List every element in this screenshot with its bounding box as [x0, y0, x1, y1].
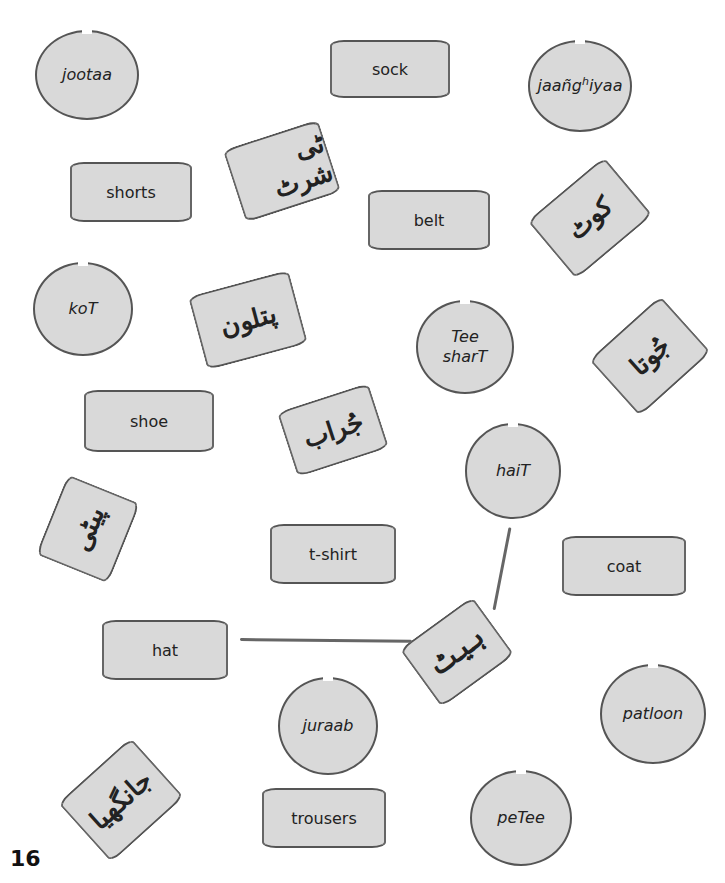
- card-label: shoe: [130, 412, 168, 431]
- card-label: ٹی شرٹ: [227, 128, 337, 215]
- card-label: جُراب: [299, 406, 366, 453]
- card-urdu-tshirt[interactable]: ٹی شرٹ: [223, 119, 342, 222]
- circle-label: haiT: [496, 461, 530, 481]
- circle-label: patloon: [623, 704, 683, 724]
- card-label: جانگھیا: [84, 764, 158, 835]
- connection-line-urdu-to-hait: [492, 527, 511, 610]
- card-label: hat: [152, 641, 178, 660]
- card-label: t-shirt: [309, 545, 357, 564]
- card-urdu-coat[interactable]: کوٹ: [527, 157, 652, 279]
- circle-hait[interactable]: haiT: [465, 423, 561, 519]
- card-label: پتلون: [217, 298, 279, 341]
- card-label: پیٹی: [66, 503, 111, 556]
- circle-label: jootaa: [62, 65, 112, 85]
- card-urdu-joota[interactable]: جُوتا: [589, 296, 711, 417]
- card-label: belt: [414, 211, 445, 230]
- card-label: جُوتا: [624, 330, 677, 382]
- card-label: ہیٹ: [424, 622, 490, 682]
- circle-label-line2: sharT: [443, 347, 488, 367]
- card-urdu-petee[interactable]: پیٹی: [36, 475, 141, 584]
- card-belt[interactable]: belt: [368, 190, 490, 250]
- card-urdu-jaanghiya[interactable]: جانگھیا: [58, 737, 184, 862]
- card-label: sock: [372, 60, 408, 79]
- circle-kot[interactable]: koT: [33, 262, 133, 356]
- circle-juraab[interactable]: juraab: [278, 677, 378, 775]
- circle-patloon[interactable]: patloon: [600, 664, 706, 764]
- circle-petee[interactable]: peTee: [470, 770, 572, 866]
- card-urdu-patloon[interactable]: پتلون: [188, 270, 308, 370]
- card-urdu-juraab[interactable]: جُراب: [277, 383, 389, 477]
- circle-jaanghiyaa[interactable]: jaañghiyaa: [528, 40, 632, 132]
- connection-line-hat-to-urdu: [240, 638, 412, 643]
- card-label: coat: [607, 557, 642, 576]
- circle-label: jaañghiyaa: [538, 75, 623, 96]
- card-label: shorts: [106, 183, 155, 202]
- card-hat[interactable]: hat: [102, 620, 228, 680]
- circle-label: juraab: [303, 716, 354, 736]
- circle-label-line1: Tee: [451, 327, 478, 347]
- page-number: 16: [10, 846, 41, 871]
- card-trousers[interactable]: trousers: [262, 788, 386, 848]
- card-shoe[interactable]: shoe: [84, 390, 214, 452]
- circle-label: koT: [69, 299, 98, 319]
- card-coat[interactable]: coat: [562, 536, 686, 596]
- card-urdu-hait[interactable]: ہیٹ: [399, 596, 514, 707]
- card-sock[interactable]: sock: [330, 40, 450, 98]
- card-shorts[interactable]: shorts: [70, 162, 192, 222]
- card-t-shirt[interactable]: t-shirt: [270, 524, 396, 584]
- card-label: trousers: [291, 809, 357, 828]
- circle-label: peTee: [497, 808, 544, 828]
- card-label: کوٹ: [562, 191, 619, 245]
- circle-tee-shart[interactable]: TeesharT: [416, 300, 514, 394]
- circle-jootaa[interactable]: jootaa: [35, 30, 139, 120]
